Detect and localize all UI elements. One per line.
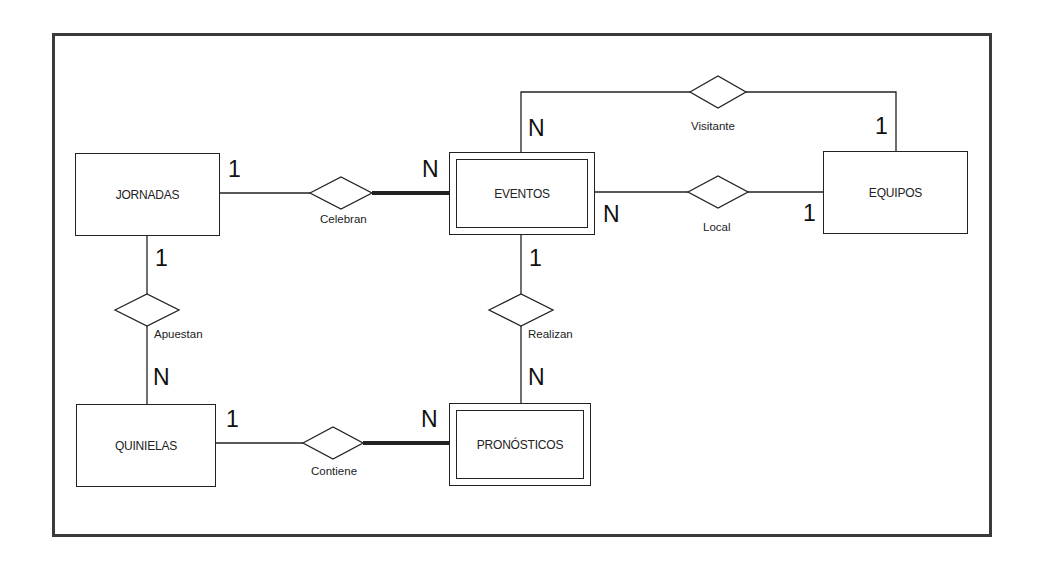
- relationship-label-celebran: Celebran: [320, 213, 367, 225]
- entity-label: PRONÓSTICOS: [477, 438, 563, 452]
- cardinality-realizan-eventos: 1: [529, 247, 542, 270]
- entity-label: EQUIPOS: [869, 186, 922, 200]
- visitante-line-equipos: [746, 92, 896, 151]
- relationship-label-apuestan: Apuestan: [154, 328, 203, 340]
- entity-label: QUINIELAS: [115, 439, 177, 453]
- cardinality-local-eventos: N: [603, 203, 620, 226]
- apuestan-diamond: [115, 294, 179, 326]
- entity-eventos[interactable]: EVENTOS: [449, 152, 595, 235]
- celebran-diamond: [310, 177, 372, 209]
- cardinality-realizan-pronosticos: N: [528, 366, 545, 389]
- entity-label: EVENTOS: [494, 187, 550, 201]
- relationship-label-local: Local: [703, 221, 731, 233]
- cardinality-celebran-jornadas: 1: [228, 158, 241, 181]
- visitante-diamond: [690, 76, 746, 108]
- cardinality-apuestan-quinielas: N: [153, 366, 170, 389]
- cardinality-visitante-equipos: 1: [875, 115, 888, 138]
- entity-jornadas[interactable]: JORNADAS: [75, 153, 220, 236]
- contiene-diamond: [303, 427, 363, 459]
- relationship-label-realizan: Realizan: [528, 328, 573, 340]
- entity-label: JORNADAS: [116, 188, 180, 202]
- entity-quinielas[interactable]: QUINIELAS: [76, 404, 216, 487]
- cardinality-local-equipos: 1: [803, 202, 816, 225]
- cardinality-apuestan-jornadas: 1: [155, 247, 168, 270]
- cardinality-celebran-eventos: N: [422, 158, 439, 181]
- cardinality-visitante-eventos: N: [528, 117, 545, 140]
- realizan-diamond: [489, 294, 553, 326]
- entity-pronosticos[interactable]: PRONÓSTICOS: [449, 403, 591, 486]
- relationship-label-visitante: Visitante: [691, 120, 735, 132]
- visitante-line-eventos: [521, 92, 690, 152]
- cardinality-contiene-pronosticos: N: [421, 408, 438, 431]
- relationship-label-contiene: Contiene: [311, 465, 357, 477]
- local-diamond: [688, 176, 748, 208]
- cardinality-contiene-quinielas: 1: [226, 408, 239, 431]
- entity-equipos[interactable]: EQUIPOS: [823, 151, 968, 234]
